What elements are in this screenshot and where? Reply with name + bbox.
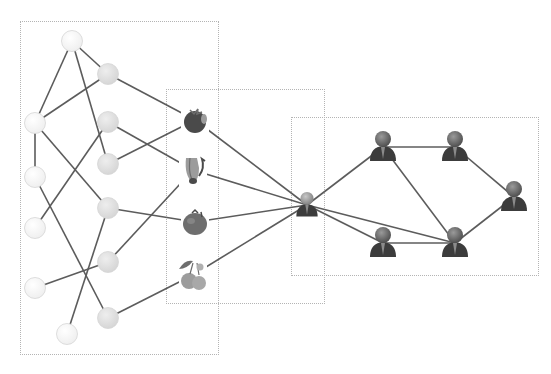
user-icon-U2 [442,131,468,161]
edge-F3-U0 [193,205,307,275]
banana-icon [179,154,207,186]
cherries-icon [179,259,207,291]
feature-node-L4 [25,278,46,299]
feature-node-L3 [25,218,46,239]
user-icon-U4 [370,227,396,257]
edge-L2-M5 [35,177,108,318]
feature-node-M2 [98,154,119,175]
edge-L0-M2 [72,41,108,164]
tomato-icon [181,206,209,238]
edge-F2-U0 [195,205,307,222]
edge-M1-L3 [35,122,108,228]
edge-F0-U0 [195,120,307,205]
feature-node-M0 [98,64,119,85]
feature-node-L0 [62,31,83,52]
user-icon-U1 [370,131,396,161]
edge-U1-U5 [383,147,455,243]
graph-svg [0,0,551,374]
edge-F1-U0 [193,170,307,205]
diagram-canvas [0,0,551,374]
strawberry-icon [181,104,209,136]
user-icon-U3 [501,181,527,211]
feature-node-M3 [98,198,119,219]
feature-node-L1 [25,113,46,134]
feature-node-M4 [98,252,119,273]
user-icon-center [296,192,317,217]
feature-node-L2 [25,167,46,188]
nodes-layer [25,31,528,345]
feature-node-M5 [98,308,119,329]
edges-layer [35,41,514,334]
edge-L1-M3 [35,123,108,208]
edge-U0-U4 [307,205,383,243]
edge-M4-L4 [35,262,108,288]
feature-node-L5 [57,324,78,345]
feature-node-M1 [98,112,119,133]
